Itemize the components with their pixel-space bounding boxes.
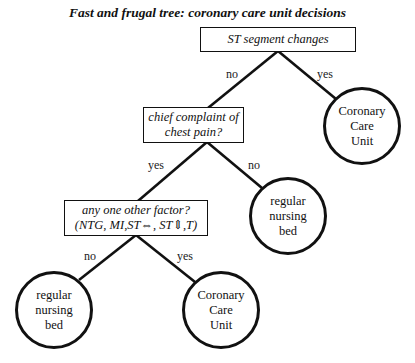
edge-q1-no-line	[208, 51, 278, 108]
leaf-text-line-3: Unit	[351, 134, 373, 149]
decision-other-factor: any one other factor? (NTG, MI,ST⇔, ST⇕,…	[64, 200, 208, 236]
leaf-text-line-2: Care	[209, 303, 233, 318]
diagram-title: Fast and frugal tree: coronary care unit…	[0, 5, 415, 21]
leaf-text-line-2: nursing	[269, 209, 307, 224]
leaf-text-line-2: nursing	[35, 303, 73, 318]
decision-st-segment-changes: ST segment changes	[200, 27, 356, 52]
edge-label-q2-no: no	[248, 158, 260, 173]
edge-label-q1-no: no	[226, 67, 238, 82]
decision-chief-complaint: chief complaint of chest pain?	[143, 107, 244, 143]
leaf-text-line-3: bed	[45, 318, 63, 333]
decision-text-line-1: chief complaint of	[148, 110, 238, 125]
edge-label-q2-yes: yes	[148, 158, 164, 173]
leaf-text-line-2: Care	[350, 119, 374, 134]
decision-text-line-2: chest pain?	[165, 125, 222, 140]
leaf-text-line-1: Coronary	[338, 104, 385, 119]
edge-label-q3-yes: yes	[177, 249, 193, 264]
leaf-coronary-care-unit-2: Coronary Care Unit	[182, 271, 260, 349]
decision-text: ST segment changes	[227, 32, 328, 47]
leaf-text-line-3: bed	[279, 224, 297, 239]
leaf-coronary-care-unit-1: Coronary Care Unit	[323, 87, 401, 165]
leaf-text-line-1: Coronary	[197, 288, 244, 303]
edge-label-q3-no: no	[84, 249, 96, 264]
leaf-text-line-3: Unit	[210, 318, 232, 333]
decision-text-line-1: any one other factor?	[82, 203, 190, 218]
leaf-regular-nursing-bed-2: regular nursing bed	[15, 271, 93, 349]
leaf-text-line-1: regular	[270, 194, 305, 209]
leaf-regular-nursing-bed-1: regular nursing bed	[249, 177, 327, 255]
leaf-text-line-1: regular	[36, 288, 71, 303]
fast-frugal-tree-diagram: Fast and frugal tree: coronary care unit…	[0, 0, 415, 363]
decision-text-line-2: (NTG, MI,ST⇔, ST⇕,T)	[75, 218, 197, 233]
edge-label-q1-yes: yes	[317, 67, 333, 82]
